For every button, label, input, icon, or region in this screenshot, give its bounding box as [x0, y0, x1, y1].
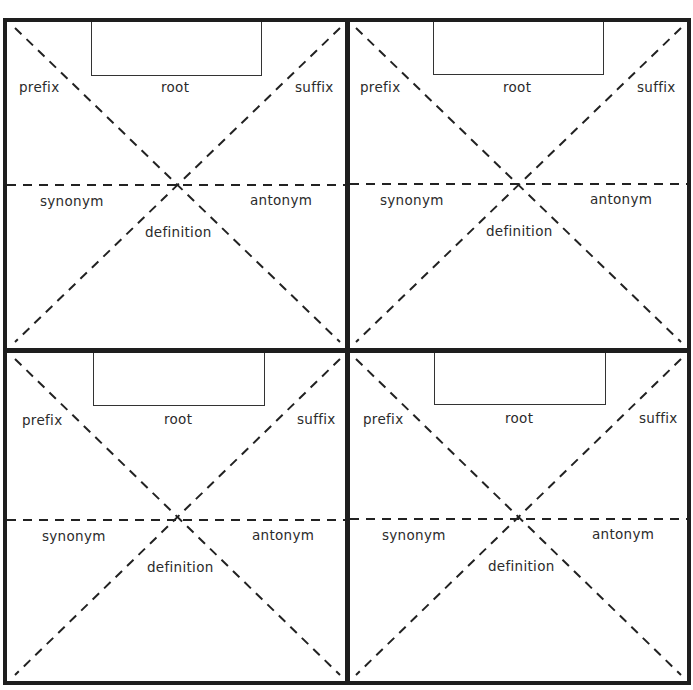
worksheet-frame: prefix root suffix synonym antonym defin…	[3, 18, 691, 685]
root-input-box[interactable]	[91, 22, 262, 76]
definition-label: definition	[486, 225, 553, 239]
synonym-label: synonym	[40, 195, 104, 209]
antonym-label: antonym	[250, 194, 312, 208]
suffix-label: suffix	[637, 81, 676, 95]
root-input-box[interactable]	[93, 353, 265, 406]
quadrant-bottom-left: prefix root suffix synonym antonym defin…	[7, 353, 345, 681]
suffix-label: suffix	[295, 81, 334, 95]
root-label: root	[505, 412, 533, 426]
definition-label: definition	[147, 561, 214, 575]
definition-label: definition	[145, 226, 212, 240]
prefix-label: prefix	[22, 414, 62, 428]
antonym-label: antonym	[252, 529, 314, 543]
synonym-label: synonym	[42, 530, 106, 544]
root-label: root	[503, 81, 531, 95]
synonym-label: synonym	[382, 529, 446, 543]
antonym-label: antonym	[592, 528, 654, 542]
definition-label: definition	[488, 560, 555, 574]
quadrant-bottom-right: prefix root suffix synonym antonym defin…	[350, 353, 687, 681]
quadrant-top-right: prefix root suffix synonym antonym defin…	[350, 22, 687, 348]
antonym-label: antonym	[590, 193, 652, 207]
horizontal-divider	[7, 348, 687, 353]
prefix-label: prefix	[363, 413, 403, 427]
quadrant-top-left: prefix root suffix synonym antonym defin…	[7, 22, 345, 348]
prefix-label: prefix	[360, 81, 400, 95]
root-label: root	[164, 413, 192, 427]
suffix-label: suffix	[639, 412, 678, 426]
synonym-label: synonym	[380, 194, 444, 208]
root-input-box[interactable]	[434, 353, 606, 405]
root-label: root	[161, 81, 189, 95]
root-input-box[interactable]	[433, 22, 604, 75]
suffix-label: suffix	[297, 413, 336, 427]
prefix-label: prefix	[19, 81, 59, 95]
